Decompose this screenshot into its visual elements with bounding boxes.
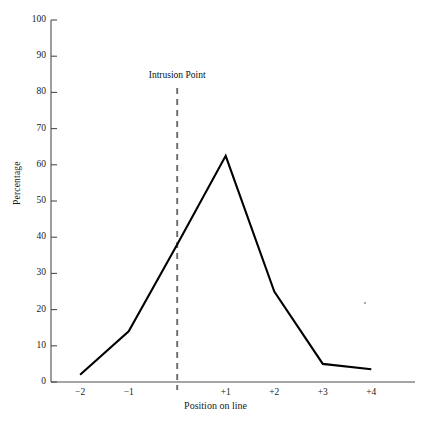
y-tick-label-80: 80 (20, 88, 46, 98)
y-tick-label-70: 70 (20, 124, 46, 134)
y-tick-label-90: 90 (20, 51, 46, 61)
y-tick-label-60: 60 (20, 160, 46, 170)
intrusion-point-annotation-label: Intrusion Point (149, 70, 206, 80)
scan-artifact-speck (364, 302, 366, 304)
x-tick-label-plus-2: +2 (269, 388, 279, 398)
y-tick-label-0: 0 (20, 377, 46, 387)
x-tick-label-plus-4: +4 (366, 388, 376, 398)
data-line-percentage (80, 156, 371, 375)
x-tick-label-plus-3: +3 (318, 388, 328, 398)
y-axis-label: Percentage (12, 161, 22, 205)
x-tick-label-plus-1: +1 (221, 388, 231, 398)
x-axis-label: Position on line (0, 400, 431, 411)
chart-figure: 100 90 80 70 60 50 40 30 20 10 0 −2 −1 +… (0, 0, 431, 429)
y-tick-label-40: 40 (20, 232, 46, 242)
y-tick-label-20: 20 (20, 305, 46, 315)
y-tick-marks (51, 20, 57, 382)
y-tick-label-10: 10 (20, 341, 46, 351)
x-tick-label-minus-2: −2 (75, 388, 85, 398)
y-tick-label-50: 50 (20, 196, 46, 206)
x-tick-label-minus-1: −1 (124, 388, 134, 398)
y-tick-label-100: 100 (20, 15, 46, 25)
chart-plot-area (0, 0, 431, 429)
y-tick-label-30: 30 (20, 269, 46, 279)
